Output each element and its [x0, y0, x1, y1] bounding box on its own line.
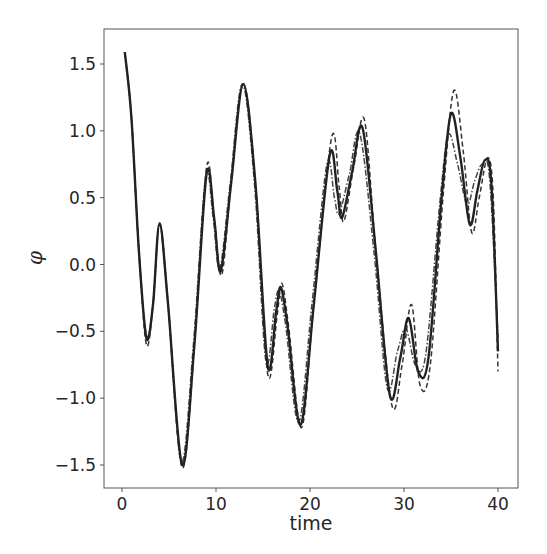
x-tick-label: 40: [487, 494, 509, 514]
y-tick-label: 0.5: [69, 188, 96, 208]
y-axis: 1.51.00.50.0−0.5−1.0−1.5: [55, 54, 104, 475]
series-line-solid: [125, 52, 498, 465]
x-tick-label: 0: [117, 494, 128, 514]
x-axis-label: time: [290, 512, 333, 534]
line-chart: 010203040 1.51.00.50.0−0.5−1.0−1.5 time …: [0, 0, 547, 554]
x-tick-label: 20: [299, 494, 321, 514]
series-line-dashed: [125, 52, 498, 468]
x-tick-label: 10: [205, 494, 227, 514]
x-tick-label: 30: [393, 494, 415, 514]
y-tick-label: −1.0: [55, 388, 96, 408]
y-tick-label: −0.5: [55, 321, 96, 341]
plot-area: [125, 52, 498, 468]
y-tick-label: 0.0: [69, 255, 96, 275]
x-axis: 010203040: [117, 488, 509, 514]
y-tick-label: −1.5: [55, 455, 96, 475]
series-line-dash-dot: [125, 52, 498, 463]
y-tick-label: 1.5: [69, 54, 96, 74]
y-tick-label: 1.0: [69, 121, 96, 141]
plot-frame: [104, 29, 518, 488]
y-axis-label: φ: [23, 251, 47, 265]
